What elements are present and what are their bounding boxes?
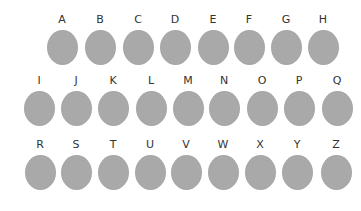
letter-label: U <box>133 139 167 151</box>
letter-label: K <box>96 75 130 87</box>
letter-item-m[interactable]: M <box>171 75 205 135</box>
letter-label: F <box>232 14 266 26</box>
circle-button[interactable] <box>209 91 240 126</box>
letter-item-c[interactable]: C <box>121 14 155 74</box>
circle-button[interactable] <box>282 155 313 190</box>
letter-label: R <box>23 139 57 151</box>
circle-button[interactable] <box>245 155 276 190</box>
letter-label: D <box>158 14 192 26</box>
letter-item-g[interactable]: G <box>269 14 303 74</box>
circle-button[interactable] <box>25 155 56 190</box>
letter-item-f[interactable]: F <box>232 14 266 74</box>
circle-button[interactable] <box>198 30 229 65</box>
letter-label: Q <box>320 75 354 87</box>
circle-button[interactable] <box>61 91 92 126</box>
letter-item-k[interactable]: K <box>96 75 130 135</box>
circle-button[interactable] <box>271 30 302 65</box>
letter-label: N <box>207 75 241 87</box>
letter-label: M <box>171 75 205 87</box>
circle-button[interactable] <box>247 91 278 126</box>
circle-button[interactable] <box>85 30 116 65</box>
letter-item-u[interactable]: U <box>133 139 167 199</box>
letter-item-t[interactable]: T <box>96 139 130 199</box>
circle-button[interactable] <box>98 155 129 190</box>
circle-button[interactable] <box>234 30 265 65</box>
circle-button[interactable] <box>135 155 166 190</box>
letter-item-z[interactable]: Z <box>319 139 353 199</box>
letter-item-v[interactable]: V <box>169 139 203 199</box>
letter-item-d[interactable]: D <box>158 14 192 74</box>
letter-item-l[interactable]: L <box>134 75 168 135</box>
circle-button[interactable] <box>171 155 202 190</box>
letter-label: G <box>269 14 303 26</box>
letter-label: X <box>243 139 277 151</box>
letter-item-r[interactable]: R <box>23 139 57 199</box>
letter-label: V <box>169 139 203 151</box>
letter-item-q[interactable]: Q <box>320 75 354 135</box>
letter-label: I <box>22 75 56 87</box>
letter-item-s[interactable]: S <box>59 139 93 199</box>
circle-button[interactable] <box>123 30 154 65</box>
letter-label: H <box>306 14 340 26</box>
letter-label: A <box>45 14 79 26</box>
letter-label: T <box>96 139 130 151</box>
circle-button[interactable] <box>24 91 55 126</box>
letter-label: P <box>282 75 316 87</box>
circle-button[interactable] <box>284 91 315 126</box>
circle-button[interactable] <box>173 91 204 126</box>
letter-label: O <box>245 75 279 87</box>
circle-button[interactable] <box>308 30 339 65</box>
circle-button[interactable] <box>47 30 78 65</box>
circle-button[interactable] <box>98 91 129 126</box>
letter-item-n[interactable]: N <box>207 75 241 135</box>
circle-button[interactable] <box>136 91 167 126</box>
letter-label: J <box>59 75 93 87</box>
letter-item-y[interactable]: Y <box>280 139 314 199</box>
letter-label: Z <box>319 139 353 151</box>
letter-item-i[interactable]: I <box>22 75 56 135</box>
letter-item-j[interactable]: J <box>59 75 93 135</box>
letter-item-e[interactable]: E <box>196 14 230 74</box>
letter-item-h[interactable]: H <box>306 14 340 74</box>
letter-item-p[interactable]: P <box>282 75 316 135</box>
circle-button[interactable] <box>61 155 92 190</box>
circle-button[interactable] <box>321 155 352 190</box>
letter-label: B <box>83 14 117 26</box>
circle-button[interactable] <box>160 30 191 65</box>
circle-button[interactable] <box>322 91 353 126</box>
letter-label: S <box>59 139 93 151</box>
letter-label: L <box>134 75 168 87</box>
letter-label: C <box>121 14 155 26</box>
letter-item-a[interactable]: A <box>45 14 79 74</box>
letter-label: Y <box>280 139 314 151</box>
letter-label: E <box>196 14 230 26</box>
letter-item-o[interactable]: O <box>245 75 279 135</box>
letter-item-w[interactable]: W <box>206 139 240 199</box>
letter-label: W <box>206 139 240 151</box>
letter-item-b[interactable]: B <box>83 14 117 74</box>
letter-item-x[interactable]: X <box>243 139 277 199</box>
circle-button[interactable] <box>208 155 239 190</box>
